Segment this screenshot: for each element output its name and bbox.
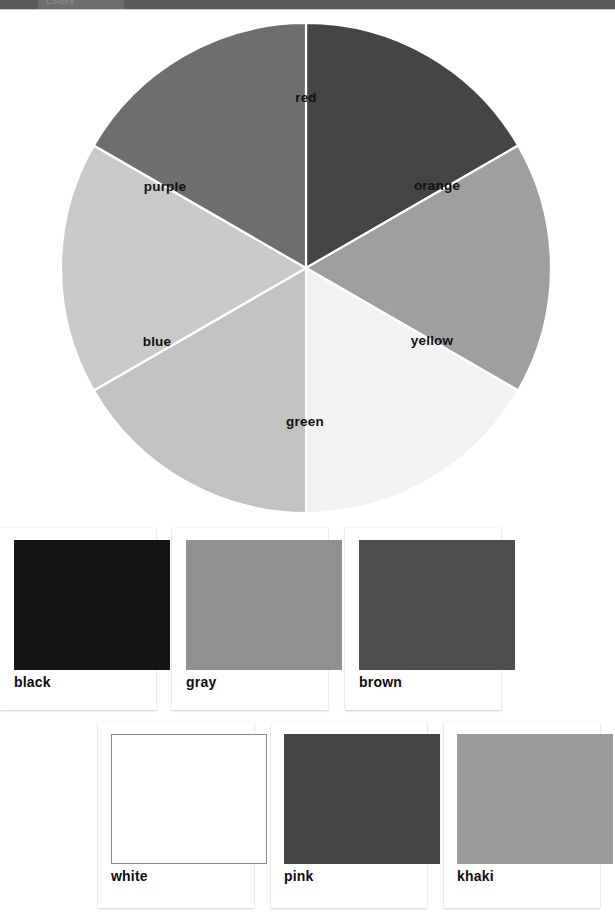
color-wheel-svg — [0, 10, 615, 525]
swatch-black[interactable] — [14, 540, 170, 670]
swatch-card-brown[interactable]: brown — [345, 528, 501, 710]
swatch-brown[interactable] — [359, 540, 515, 670]
pie-slice-label-red: red — [295, 90, 317, 105]
swatch-label-gray: gray — [186, 674, 216, 690]
pie-slice-label-blue: blue — [143, 334, 172, 349]
pie-slice-label-orange: orange — [414, 178, 460, 193]
swatch-card-black[interactable]: black — [0, 528, 156, 710]
swatch-khaki[interactable] — [457, 734, 613, 864]
pie-slice-label-green: green — [286, 414, 324, 429]
color-wheel: redorangeyellowgreenbluepurple — [0, 10, 615, 525]
swatch-gray[interactable] — [186, 540, 342, 670]
pie-slice-label-purple: purple — [144, 179, 186, 194]
swatch-card-pink[interactable]: pink — [271, 722, 427, 908]
swatch-label-brown: brown — [359, 674, 402, 690]
swatch-row-2: whitepinkkhaki — [0, 722, 615, 912]
swatch-card-white[interactable]: white — [98, 722, 254, 908]
swatch-white[interactable] — [111, 734, 267, 864]
swatch-pink[interactable] — [284, 734, 440, 864]
swatch-card-gray[interactable]: gray — [172, 528, 328, 710]
swatch-label-white: white — [111, 868, 148, 884]
swatch-label-khaki: khaki — [457, 868, 494, 884]
app-toolbar-strip: Colors — [0, 0, 615, 10]
swatch-label-pink: pink — [284, 868, 314, 884]
swatch-card-khaki[interactable]: khaki — [444, 722, 600, 908]
swatch-label-black: black — [14, 674, 51, 690]
pie-slice-label-yellow: yellow — [411, 333, 453, 348]
toolbar-tab-label: Colors — [46, 0, 74, 6]
swatch-row-1: blackgraybrown — [0, 528, 615, 714]
